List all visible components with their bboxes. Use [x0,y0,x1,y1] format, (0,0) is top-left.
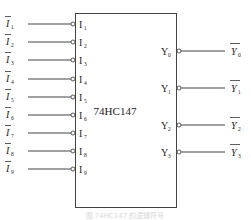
output-signal-sub: 3 [238,153,241,159]
input-pin-9: I 9 I 9 [5,162,87,177]
input-pin-sub: 8 [84,152,87,158]
input-pin-5: I 5 I 5 [5,90,87,105]
input-signal-label: I [5,18,10,29]
input-signal-label: I [5,163,10,174]
input-signal-label: I [5,145,10,156]
input-signal-label: I [5,36,10,47]
input-signal-sub: 7 [11,133,14,139]
input-signal-sub: 2 [11,42,14,48]
input-pin-label: I [79,92,82,103]
output-pin-1: Y 1 Y 1 [161,81,241,96]
input-pin-label: I [79,19,82,30]
input-signal-sub: 9 [11,169,14,175]
input-pin-sub: 5 [84,98,87,104]
chip-name: 74HC147 [94,105,137,117]
inversion-bubble-icon [71,77,75,81]
input-signal-label: I [5,127,10,138]
input-pin-sub: 9 [84,170,87,176]
input-pins: I 1 I 1 I 2 I 2 I 3 I 3 I 4 [5,17,87,177]
output-pins: Y 0 Y 0 Y 1 Y 1 Y 2 Y 2 Y 3 [161,44,241,160]
input-pin-label: I [79,110,82,121]
inversion-bubble-icon [71,131,75,135]
output-pin-0: Y 0 Y 0 [161,44,241,59]
input-signal-sub: 3 [11,60,14,66]
input-pin-label: I [79,55,82,66]
input-signal-label: I [5,54,10,65]
output-signal-sub: 1 [238,89,241,95]
inversion-bubble-icon [177,49,181,53]
input-pin-label: I [79,74,82,85]
output-pin-2: Y 2 Y 2 [161,118,241,133]
inversion-bubble-icon [177,123,181,127]
inversion-bubble-icon [177,150,181,154]
figure-caption: 图 74HC147 的逻辑符号 [86,211,165,220]
input-signal-sub: 8 [11,151,14,157]
output-signal-sub: 0 [238,52,241,58]
input-pin-label: I [79,146,82,157]
74hc147-logic-symbol: 74HC147 I 1 I 1 I 2 I 2 I 3 I [0,0,251,220]
inversion-bubble-icon [71,58,75,62]
input-pin-label: I [79,164,82,175]
input-signal-sub: 6 [11,115,14,121]
input-pin-sub: 4 [84,80,87,86]
input-pin-1: I 1 I 1 [5,17,87,32]
input-pin-8: I 8 I 8 [5,144,87,159]
input-signal-label: I [5,109,10,120]
inversion-bubble-icon [71,22,75,26]
inversion-bubble-icon [71,40,75,44]
input-pin-6: I 6 I 6 [5,108,87,123]
input-pin-sub: 3 [84,61,87,67]
output-signal-label: Y [231,147,238,158]
inversion-bubble-icon [71,167,75,171]
inversion-bubble-icon [71,113,75,117]
input-pin-sub: 6 [84,116,87,122]
output-signal-sub: 2 [238,126,241,132]
output-signal-label: Y [231,83,238,94]
input-pin-4: I 4 I 4 [5,72,87,87]
input-signal-label: I [5,91,10,102]
input-pin-label: I [79,128,82,139]
input-pin-2: I 2 I 2 [5,35,87,50]
input-pin-sub: 2 [84,43,87,49]
inversion-bubble-icon [71,149,75,153]
input-signal-sub: 5 [11,97,14,103]
input-pin-3: I 3 I 3 [5,53,87,68]
input-signal-sub: 1 [11,24,14,30]
inversion-bubble-icon [177,86,181,90]
output-signal-label: Y [231,120,238,131]
output-pin-sub: 0 [168,52,171,58]
input-pin-label: I [79,37,82,48]
input-pin-7: I 7 I 7 [5,126,87,141]
output-pin-3: Y 3 Y 3 [161,145,241,160]
inversion-bubble-icon [71,95,75,99]
output-pin-sub: 1 [168,89,171,95]
input-signal-sub: 4 [11,79,14,85]
input-signal-label: I [5,73,10,84]
output-pin-sub: 2 [168,126,171,132]
input-pin-sub: 1 [84,25,87,31]
output-pin-sub: 3 [168,153,171,159]
output-signal-label: Y [231,46,238,57]
input-pin-sub: 7 [84,134,87,140]
